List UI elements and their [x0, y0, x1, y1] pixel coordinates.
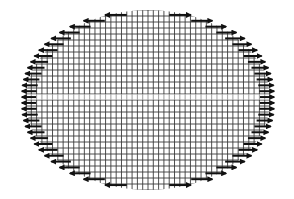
elliptical-grid-diagram — [0, 0, 294, 199]
grid-mesh — [26, 10, 270, 190]
center-band — [26, 94, 270, 100]
